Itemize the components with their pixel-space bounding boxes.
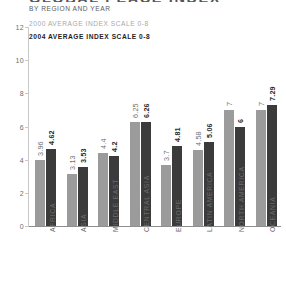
bar-group: 3.964.62 xyxy=(35,27,56,226)
bar-value-label: 3.7 xyxy=(163,150,171,161)
category-label: NORTH AMERICA xyxy=(238,166,245,232)
bar-value-label: 7.29 xyxy=(268,86,276,101)
bar-value-label: 4.2 xyxy=(111,142,119,153)
bar-group: 3.74.81 xyxy=(161,27,182,226)
bar-2000: 7 xyxy=(224,110,234,226)
bar-2000: 6.25 xyxy=(130,122,140,226)
bar-2000: 3.96 xyxy=(35,160,45,226)
y-axis-tick-label: 12 xyxy=(2,24,24,31)
category-label: CENTRAL ASIA xyxy=(143,175,150,232)
bar-2000: 7 xyxy=(256,110,266,226)
category-label: AFRICA xyxy=(49,203,56,232)
y-axis-tick-label: 10 xyxy=(2,57,24,64)
bar-group: 3.133.53 xyxy=(67,27,88,226)
category-label: LATIN AMERICA xyxy=(206,172,213,232)
bar-value-label: 6.25 xyxy=(131,104,139,119)
chart-title: GLOBAL PEACE INDEX xyxy=(29,0,279,2)
bar-value-label: 7 xyxy=(257,102,265,106)
bar-2000: 4.4 xyxy=(98,153,108,226)
y-axis-tick-label: 6 xyxy=(2,123,24,130)
bar-value-label: 4.62 xyxy=(48,131,56,146)
bar-value-label: 3.13 xyxy=(68,155,76,170)
category-label: OCEANIA xyxy=(269,197,276,233)
global-peace-index-chart: GLOBAL PEACE INDEX BY REGION AND YEAR 20… xyxy=(0,0,286,303)
category-label: EUROPE xyxy=(175,199,182,232)
y-axis-tick-label: 2 xyxy=(2,189,24,196)
y-axis-tick-label: 0 xyxy=(2,223,24,230)
category-label: ASIA xyxy=(80,214,87,232)
bar-2000: 3.7 xyxy=(161,165,171,226)
bar-2000: 3.13 xyxy=(67,174,77,226)
bar-value-label: 7 xyxy=(226,102,234,106)
y-axis-tick-label: 4 xyxy=(2,156,24,163)
bar-value-label: 5.06 xyxy=(205,123,213,138)
legend-item-2000: 2000 AVERAGE INDEX SCALE 0-8 xyxy=(29,20,149,27)
bar-value-label: 6 xyxy=(237,118,245,122)
bar-value-label: 4.58 xyxy=(194,131,202,146)
bar-value-label: 6.26 xyxy=(142,103,150,118)
category-label: MIDDLE EAST xyxy=(112,179,119,232)
bar-value-label: 3.96 xyxy=(37,142,45,157)
y-axis-tick-mark xyxy=(25,226,29,227)
bar-value-label: 4.81 xyxy=(174,127,182,142)
bar-value-label: 4.4 xyxy=(100,138,108,149)
y-axis-tick-label: 8 xyxy=(2,90,24,97)
bar-value-label: 3.53 xyxy=(79,149,87,164)
bar-2000: 4.58 xyxy=(193,150,203,226)
chart-subtitle: BY REGION AND YEAR xyxy=(29,5,110,12)
